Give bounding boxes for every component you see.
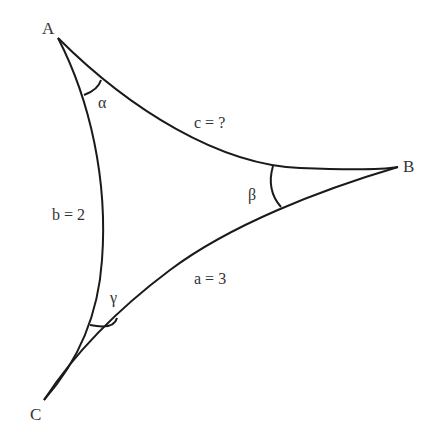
side-label-c: c = ? xyxy=(194,114,225,131)
angle-label-beta: β xyxy=(248,186,256,204)
side-label-a: a = 3 xyxy=(194,270,226,287)
vertex-label-b: B xyxy=(403,157,414,176)
angle-alpha-arc xyxy=(84,80,101,95)
vertex-label-a: A xyxy=(42,19,55,38)
angle-label-gamma: γ xyxy=(109,289,117,307)
side-c-curve xyxy=(58,38,398,169)
side-label-b: b = 2 xyxy=(52,206,85,223)
vertex-label-c: C xyxy=(30,405,41,424)
hyperbolic-triangle-diagram: A B C α β γ c = ? b = 2 a = 3 xyxy=(0,0,432,447)
angle-beta-arc xyxy=(271,166,281,207)
angle-label-alpha: α xyxy=(98,94,107,111)
